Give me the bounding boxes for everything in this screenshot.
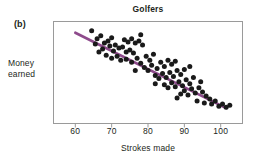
scatter-point [129,60,134,65]
x-tick-label: 60 [63,127,87,136]
scatter-point [227,103,232,108]
scatter-point [151,52,156,57]
scatter-point [213,99,218,104]
scatter-point [133,68,138,73]
scatter-point [173,59,178,64]
scatter-point [93,41,98,46]
scatter-point [175,68,180,73]
scatter-point [182,88,187,93]
scatter-point [120,45,125,50]
scatter-point [146,68,151,73]
scatter-point [193,90,198,95]
scatter-point [140,42,145,47]
scatter-point [115,54,120,59]
scatter-point [144,54,149,59]
scatter-point [167,70,172,75]
scatter-point [200,89,205,94]
scatter-point [155,66,160,71]
scatter-point [171,74,176,79]
x-tick-label: 90 [172,127,196,136]
scatter-point [153,81,158,86]
scatter-point [136,38,141,43]
scatter-point [131,51,136,56]
scatter-plot-canvas [0,0,258,165]
scatter-point [180,83,185,88]
scatter-point [175,96,180,101]
scatter-point [111,49,116,54]
scatter-point [135,56,140,61]
scatter-point [156,76,161,81]
scatter-point [104,53,109,58]
scatter-point [165,85,170,90]
scatter-point [129,36,134,41]
x-tick-label: 80 [136,127,160,136]
scatter-point [118,58,123,63]
scatter-point [184,77,189,82]
scatter-point [124,57,129,62]
scatter-point [173,84,178,89]
scatter-point [162,64,167,69]
scatter-point [202,101,207,106]
figure-panel-b: (b) Golfers Money earned 60708090100 Str… [0,0,258,165]
scatter-point [149,63,154,68]
x-tick-label: 100 [209,127,233,136]
scatter-point [160,71,165,76]
scatter-point [109,56,114,61]
scatter-point [195,99,200,104]
scatter-point [164,75,169,80]
scatter-point [207,97,212,102]
scatter-point [189,86,194,91]
scatter-point [158,60,163,65]
scatter-point [187,64,192,69]
scatter-point [107,43,112,48]
scatter-point [169,80,174,85]
scatter-point [89,28,94,33]
scatter-point [191,75,196,80]
scatter-point [138,61,143,66]
scatter-point [178,72,183,77]
scatter-point [198,79,203,84]
scatter-point [165,58,170,63]
scatter-point [187,81,192,86]
scatter-point [96,50,101,55]
scatter-point [109,35,114,40]
scatter-point [196,85,201,90]
x-tick-label: 70 [100,127,124,136]
scatter-point [182,67,187,72]
scatter-point [185,92,190,97]
x-axis-label: Strokes made [53,144,243,153]
scatter-point [98,33,103,38]
scatter-point [138,32,143,37]
scatter-point [176,79,181,84]
scatter-point [147,58,152,63]
